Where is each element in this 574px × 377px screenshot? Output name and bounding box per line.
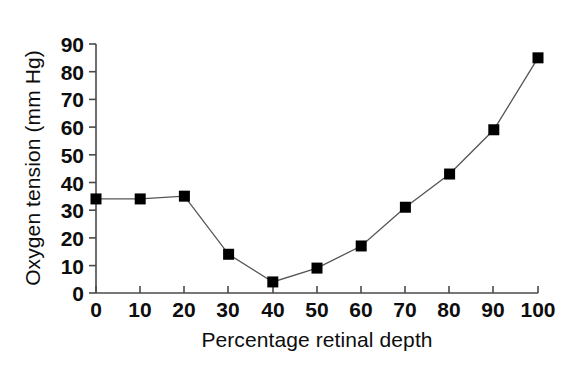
data-point-marker bbox=[444, 169, 455, 180]
data-point-marker bbox=[91, 193, 102, 204]
y-tick-label-60: 60 bbox=[61, 116, 84, 139]
x-tick-label-60: 60 bbox=[349, 298, 372, 321]
data-point-marker bbox=[179, 191, 190, 202]
y-tick-label-0: 0 bbox=[72, 282, 84, 305]
data-point-marker bbox=[135, 193, 146, 204]
data-point-marker bbox=[312, 263, 323, 274]
x-tick-label-70: 70 bbox=[393, 298, 416, 321]
y-tick-label-70: 70 bbox=[61, 88, 84, 111]
x-tick-label-80: 80 bbox=[437, 298, 460, 321]
x-tick-label-10: 10 bbox=[128, 298, 151, 321]
data-point-marker bbox=[267, 276, 278, 287]
y-tick-label-50: 50 bbox=[61, 144, 84, 167]
y-tick-label-90: 90 bbox=[61, 33, 84, 56]
x-tick-label-20: 20 bbox=[172, 298, 195, 321]
y-tick-label-10: 10 bbox=[61, 255, 84, 278]
x-tick-label-90: 90 bbox=[481, 298, 504, 321]
line-chart-canvas: 90 80 70 60 50 40 30 20 10 0 0 bbox=[0, 0, 574, 377]
data-point-marker bbox=[356, 240, 367, 251]
x-tick-label-40: 40 bbox=[261, 298, 284, 321]
data-point-marker bbox=[223, 249, 234, 260]
x-tick-label-50: 50 bbox=[305, 298, 328, 321]
data-point-marker bbox=[533, 52, 544, 63]
data-point-marker bbox=[488, 124, 499, 135]
y-tick-label-20: 20 bbox=[61, 227, 84, 250]
x-tick-label-0: 0 bbox=[90, 298, 102, 321]
data-point-marker bbox=[400, 202, 411, 213]
chart-figure: 90 80 70 60 50 40 30 20 10 0 0 bbox=[0, 0, 574, 377]
y-tick-label-30: 30 bbox=[61, 199, 84, 222]
x-axis-title: Percentage retinal depth bbox=[201, 328, 432, 351]
y-tick-label-40: 40 bbox=[61, 172, 84, 195]
x-tick-label-100: 100 bbox=[520, 298, 555, 321]
y-tick-label-80: 80 bbox=[61, 61, 84, 84]
x-tick-label-30: 30 bbox=[216, 298, 239, 321]
y-axis-title: Oxygen tension (mm Hg) bbox=[21, 50, 44, 286]
